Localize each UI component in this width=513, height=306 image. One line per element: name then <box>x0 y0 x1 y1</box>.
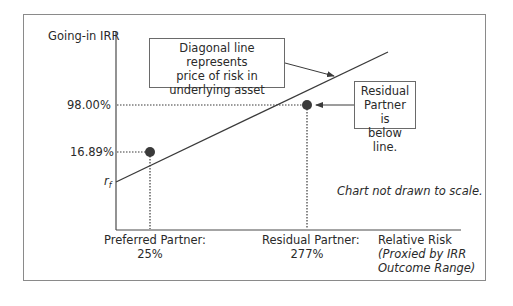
scale-note: Chart not drawn to scale. <box>337 184 483 198</box>
box2-line2: Partner is <box>359 98 411 126</box>
annotation-diagonal: Diagonal line represents price of risk i… <box>149 38 285 88</box>
x-axis-line1: Relative Risk <box>378 233 475 247</box>
annotation-residual: Residual Partner is below line. <box>354 81 416 129</box>
rf-sub: f <box>109 181 112 190</box>
x-pref-line1: Preferred Partner: <box>104 233 196 247</box>
x-resid-line1: Residual Partner: <box>262 233 352 247</box>
box1-line1: Diagonal line represents <box>154 41 280 69</box>
box2-line3: below line. <box>359 126 411 154</box>
x-axis-title: Relative Risk (Proxied by IRR Outcome Ra… <box>378 233 475 275</box>
x-axis-line2: (Proxied by IRR <box>378 247 475 261</box>
box1-line2: price of risk in <box>154 69 280 83</box>
residual-partner-point <box>302 100 312 110</box>
y-axis-title: Going-in IRR <box>48 29 119 43</box>
y-tick-98: 98.00% <box>67 98 111 112</box>
x-label-preferred: Preferred Partner: 25% <box>104 233 196 261</box>
x-pref-line2: 25% <box>104 247 196 261</box>
x-axis-line3: Outcome Range) <box>378 261 475 275</box>
y-tick-1689: 16.89% <box>70 145 114 159</box>
x-label-residual: Residual Partner: 277% <box>262 233 352 261</box>
box2-line1: Residual <box>359 84 411 98</box>
preferred-partner-point <box>145 147 155 157</box>
rf-label: rf <box>104 174 112 193</box>
box1-line3: underlying asset <box>154 83 280 97</box>
box1-arrow <box>285 63 334 76</box>
x-resid-line2: 277% <box>262 247 352 261</box>
